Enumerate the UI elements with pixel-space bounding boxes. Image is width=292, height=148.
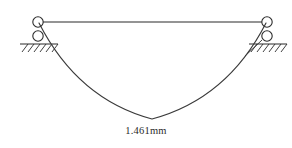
right-roller-bottom-circle-icon	[262, 31, 272, 41]
right-roller-top-circle-icon	[262, 17, 272, 27]
deflection-value-label: 1.461mm	[0, 125, 292, 136]
left-ground-hatching	[22, 44, 58, 52]
deflected-beam-figure: 1.461mm	[0, 0, 292, 148]
left-roller-bottom-circle-icon	[33, 31, 43, 41]
deflected-shape-curve	[39, 23, 266, 119]
left-roller-top-circle-icon	[33, 17, 43, 27]
